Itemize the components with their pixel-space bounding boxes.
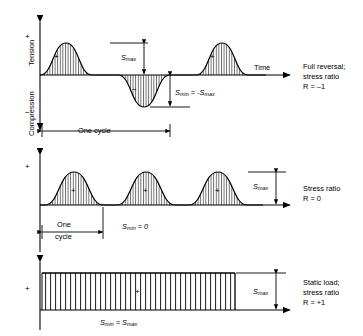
panel1-caption-line3: R = –1 — [303, 82, 325, 92]
panel2-caption-line1: Stress ratio — [303, 184, 340, 194]
panel3-smax-label: Smax — [253, 287, 268, 299]
panel3-axis-sign-plus: + — [25, 285, 30, 293]
panel1-caption-line2: stress ratio — [303, 72, 339, 82]
panel1-plus-sign-region: + — [54, 52, 59, 62]
panel1-cycle-label: One cycle — [78, 126, 111, 136]
panel1-minus-sign-region: − — [132, 85, 137, 95]
panel3-plus-sign-region: + — [135, 287, 140, 297]
panel2-axis-sign-plus: + — [25, 163, 30, 171]
fatigue-stress-cycle-figure: Tension Compression + − Time + + − Smax … — [0, 0, 363, 336]
panel1-caption-line1: Full reversal; — [303, 62, 345, 72]
panel2-cycle-label-line1: One — [57, 220, 71, 230]
panel1-smax-label: Smax — [121, 53, 136, 65]
panel1-smin-label: Smin = -Smax — [175, 88, 215, 100]
axis-sign-minus: − — [25, 109, 30, 117]
panel1-plus-sign-region-2: + — [210, 52, 215, 62]
panel2-smax-label: Smax — [253, 182, 268, 194]
axis-label-tension: Tension — [27, 40, 36, 66]
panel2-caption-line2: R = 0 — [303, 194, 321, 204]
panel2-plus-sign-region-2: + — [143, 186, 148, 196]
axis-sign-plus: + — [25, 33, 30, 41]
panel3-caption-line1: Static load; — [303, 278, 340, 288]
panel2-plus-sign-region-3: + — [215, 186, 220, 196]
panel3-caption-line3: R = +1 — [303, 298, 325, 308]
panel3-smin-label: Smin = Smax — [100, 318, 137, 330]
panel3-caption-line2: stress ratio — [303, 288, 339, 298]
axis-label-time: Time — [254, 63, 270, 73]
panel2-smin-label: Smin = 0 — [122, 222, 148, 234]
panel2-plus-sign-region-1: + — [71, 186, 76, 196]
panel2-cycle-label-line2: cycle — [55, 232, 72, 242]
